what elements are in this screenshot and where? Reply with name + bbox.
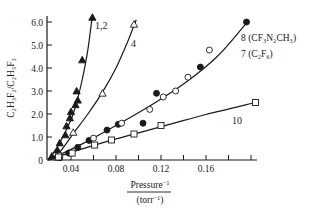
data-point-open-circle: [206, 47, 212, 53]
data-point-open-circle: [173, 88, 179, 94]
data-point-open-square: [56, 154, 62, 160]
x-ticks: 0.040.080.120.16: [63, 155, 251, 174]
x-tick-label: 0.04: [63, 164, 80, 174]
y-tick-label: 0: [38, 156, 43, 166]
x-tick-label: 0.16: [198, 164, 215, 174]
series-label-4: 4: [131, 38, 136, 49]
data-point-filled-circle: [244, 19, 250, 25]
series-label-8: 8 (CF₃N₂CH₃): [241, 33, 296, 44]
y-tick-label: 3.0: [31, 87, 43, 97]
data-point-open-triangle: [99, 90, 106, 96]
axes: 0.040.080.120.16 01.02.03.04.05.06.0: [31, 16, 257, 174]
data-point-filled-circle: [104, 127, 110, 133]
series-label-10: 10: [232, 115, 242, 126]
data-point-filled-triangle: [56, 139, 63, 145]
data-point-open-circle: [91, 135, 97, 141]
y-axis-label-text: C₂H₃F₂/C₂H₃F₃: [6, 58, 16, 117]
data-point-filled-triangle: [62, 131, 69, 137]
curves: [49, 15, 256, 160]
x-axis-label: Pressure−1 (torr−1): [127, 179, 171, 206]
data-point-open-square: [92, 142, 98, 148]
x-tick-label: 0.12: [153, 164, 170, 174]
data-point-open-circle: [185, 74, 191, 80]
data-point-filled-triangle: [79, 56, 86, 62]
y-tick-label: 5.0: [31, 41, 43, 51]
data-point-open-square: [253, 100, 259, 106]
series-label-7: 7 (C₂F₆): [241, 49, 273, 60]
y-tick-label: 2.0: [31, 110, 43, 120]
data-point-open-square: [109, 137, 115, 143]
series-labels: 1,2 4 8 (CF₃N₂CH₃) 7 (C₂F₆) 10: [95, 20, 296, 126]
data-point-filled-circle: [75, 144, 81, 150]
data-point-filled-circle: [154, 90, 160, 96]
y-axis-label: C₂H₃F₂/C₂H₃F₃: [6, 58, 16, 117]
y-ticks: 01.02.03.04.05.06.0: [31, 18, 52, 166]
data-point-open-square: [131, 131, 137, 137]
x-tick-label: 0.08: [108, 164, 125, 174]
data-point-filled-circle: [197, 64, 203, 70]
y-tick-label: 4.0: [31, 64, 43, 74]
x-axis-label-denominator: (torr−1): [137, 194, 164, 206]
data-point-open-triangle: [130, 21, 137, 27]
data-point-filled-triangle: [74, 97, 81, 103]
data-point-open-circle: [160, 94, 166, 100]
chart: 0.040.080.120.16 01.02.03.04.05.06.0 1,2…: [0, 0, 312, 213]
y-tick-label: 1.0: [31, 133, 43, 143]
data-point-open-square: [69, 150, 75, 156]
x-axis-label-numerator: Pressure−1: [130, 179, 169, 190]
data-point-filled-circle: [140, 120, 146, 126]
data-point-open-circle: [119, 120, 125, 126]
markers: [48, 14, 258, 161]
y-tick-label: 6.0: [31, 18, 43, 28]
data-point-open-square: [158, 123, 164, 129]
data-point-open-circle: [147, 106, 153, 112]
series-label-1-2: 1,2: [95, 20, 108, 31]
